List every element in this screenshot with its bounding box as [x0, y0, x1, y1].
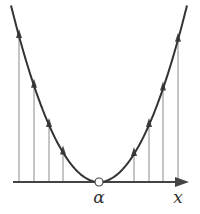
- alpha-label: α: [93, 187, 105, 207]
- parabola-curve: [11, 5, 187, 182]
- x-axis-arrowhead-icon: [175, 177, 189, 187]
- parabola-diagram: α x: [0, 0, 200, 214]
- alpha-point: [95, 178, 103, 186]
- x-axis-label: x: [173, 187, 183, 207]
